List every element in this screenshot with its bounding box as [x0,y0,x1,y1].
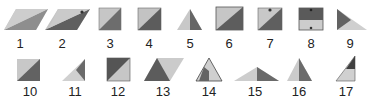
piece-5 [177,9,202,30]
label-3: 3 [106,37,113,50]
piece-11 [62,59,85,81]
piece-13 [144,58,184,81]
piece-9 [337,9,367,30]
piece-1 [4,9,48,30]
label-6: 6 [225,37,232,50]
label-5: 5 [186,37,193,50]
label-4: 4 [145,37,152,50]
piece-16 [287,58,312,81]
piece-7 [258,8,282,30]
label-7: 7 [266,37,273,50]
piece-17 [336,56,355,81]
label-11: 11 [68,85,82,98]
label-13: 13 [156,85,170,98]
piece-15 [234,67,279,81]
label-16: 16 [292,85,306,98]
label-1: 1 [16,37,23,50]
label-10: 10 [23,85,37,98]
label-8: 8 [307,37,314,50]
label-17: 17 [339,85,353,98]
piece-14 [196,58,222,81]
piece-2 [45,9,90,30]
piece-6 [216,7,243,30]
label-2: 2 [58,37,65,50]
label-15: 15 [248,85,262,98]
piece-12 [107,58,130,81]
piece-8 [299,8,323,30]
piece-4 [138,8,161,30]
piece-3 [99,8,121,30]
label-14: 14 [202,85,216,98]
piece-10 [17,59,40,81]
label-9: 9 [346,37,353,50]
label-12: 12 [111,85,125,98]
